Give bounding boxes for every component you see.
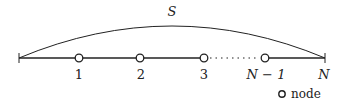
arc-label: S <box>168 4 177 19</box>
arc-s <box>19 26 325 58</box>
node-label-3: 3 <box>200 67 208 82</box>
end-label-n: N <box>317 67 330 82</box>
node-label-1: 1 <box>75 67 83 82</box>
line-segment-diagram: S 1 2 3 N − 1 N node <box>0 0 349 105</box>
node-1-icon <box>75 54 83 62</box>
node-label-2: 2 <box>137 67 145 82</box>
node-3-icon <box>200 54 208 62</box>
legend-label: node <box>291 87 321 101</box>
legend-node-icon <box>279 91 285 97</box>
node-n-minus-1-icon <box>261 54 269 62</box>
node-label-n-minus-1: N − 1 <box>246 67 286 82</box>
node-2-icon <box>136 54 144 62</box>
